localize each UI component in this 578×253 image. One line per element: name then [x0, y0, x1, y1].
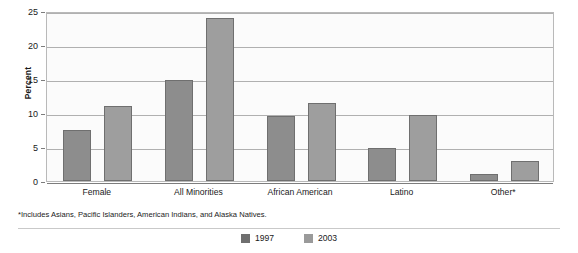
x-axis-label-3: Latino	[351, 188, 453, 197]
y-tick-mark-5	[41, 148, 45, 149]
bar[interactable]	[165, 80, 193, 181]
legend-item-1997[interactable]: 1997	[241, 234, 274, 243]
x-axis-label-0: Female	[46, 188, 148, 197]
x-axis-label-4: Other*	[452, 188, 554, 197]
x-axis-label-2: African American	[249, 188, 351, 197]
bar-group	[267, 13, 336, 181]
gridline-0	[47, 183, 553, 184]
plot-area	[46, 12, 554, 182]
y-tick-label-10: 10	[12, 110, 38, 119]
bar-group	[63, 13, 132, 181]
bar-group	[470, 13, 539, 181]
bar[interactable]	[368, 148, 396, 181]
y-tick-label-5: 5	[12, 144, 38, 153]
legend-label-1997: 1997	[255, 234, 274, 243]
y-tick-label-25: 25	[12, 8, 38, 17]
y-tick-label-15: 15	[12, 76, 38, 85]
footnote: *Includes Asians, Pacific Islanders, Ame…	[18, 210, 267, 219]
y-tick-mark-15	[41, 80, 45, 81]
legend-divider	[18, 228, 560, 229]
y-tick-label-0: 0	[12, 178, 38, 187]
bar[interactable]	[63, 130, 91, 181]
bar-group	[368, 13, 437, 181]
legend-label-2003: 2003	[318, 234, 337, 243]
x-axis-label-1: All Minorities	[148, 188, 250, 197]
bar-chart-figure: Percent 0510152025 FemaleAll MinoritiesA…	[0, 0, 578, 253]
bar[interactable]	[206, 18, 234, 181]
legend-swatch-icon	[304, 234, 313, 243]
bar[interactable]	[409, 115, 437, 181]
bar[interactable]	[104, 106, 132, 181]
bar[interactable]	[511, 161, 539, 181]
bar[interactable]	[267, 116, 295, 181]
y-tick-mark-20	[41, 46, 45, 47]
bar-group	[165, 13, 234, 181]
bar[interactable]	[308, 103, 336, 181]
legend: 1997 2003	[0, 234, 578, 243]
y-tick-label-20: 20	[12, 42, 38, 51]
legend-item-2003[interactable]: 2003	[304, 234, 337, 243]
bar[interactable]	[470, 174, 498, 181]
y-tick-mark-25	[41, 12, 45, 13]
y-tick-mark-10	[41, 114, 45, 115]
legend-swatch-icon	[241, 234, 250, 243]
y-tick-mark-0	[41, 182, 45, 183]
